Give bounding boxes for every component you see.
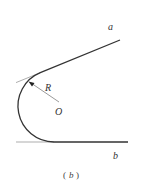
radius-arrowhead [29,82,35,87]
label-b: b [113,150,118,161]
label-r: R [44,82,51,93]
diagram: a b R O ( b ) [0,0,141,185]
caption-open: ( [63,170,66,180]
caption: ( b ) [63,170,79,180]
caption-letter: b [69,170,74,180]
contour-path [18,40,128,142]
label-o: O [55,106,62,117]
label-a: a [108,21,113,32]
caption-close: ) [76,170,79,180]
